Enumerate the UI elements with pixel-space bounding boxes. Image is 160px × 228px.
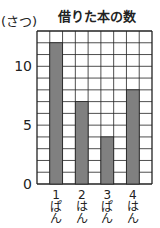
y-axis-label: (さつ) [1, 14, 37, 29]
bar-3 [101, 137, 114, 184]
x-tick-label: ん [50, 212, 62, 226]
y-tick-label: 10 [14, 58, 32, 74]
x-tick-label: ん [127, 212, 139, 226]
chart-title: 借りた本の数 [57, 9, 137, 24]
bar-4 [126, 90, 139, 184]
x-tick-label: ん [101, 212, 113, 226]
bar-chart: 借りた本の数 (さつ) 0510 1ぱん2はん3ぱん4はん [0, 0, 160, 228]
bar-1 [50, 43, 63, 184]
y-ticks: 0510 [14, 58, 32, 192]
x-tick-label: ん [76, 212, 88, 226]
y-tick-label: 5 [23, 117, 32, 133]
bar-2 [75, 102, 88, 184]
y-tick-label: 0 [23, 176, 32, 192]
x-ticks: 1ぱん2はん3ぱん4はん [50, 188, 139, 226]
